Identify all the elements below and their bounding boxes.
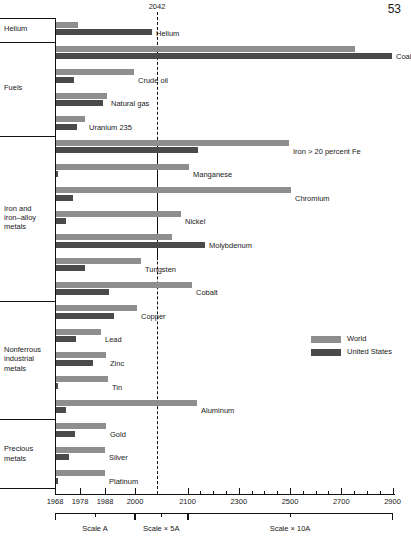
x-tick-2500 [290,488,291,494]
bar-label-nickel: Nickel [185,218,205,226]
bar-label-iron-20-percent-fe: Iron > 20 percent Fe [293,148,361,156]
bar-label-uranium-235: Uranium 235 [89,124,132,132]
x-minor-tick-2800 [367,491,368,494]
bar-world-iron-20-percent-fe [56,140,289,146]
bar-world-natural-gas [56,93,107,99]
bar-us-aluminum [56,407,66,413]
bar-us-tin [56,383,58,389]
group-label: Iron andiron–alloymetals [4,204,54,232]
bar-label-tungsten: Tungsten [145,266,176,274]
group-label: Preciousmetals [4,444,54,463]
group-label-line: Nonferrous [4,345,54,354]
x-minor-tick-2650 [328,491,329,494]
bar-us-coal [56,53,392,59]
legend-swatch-us [311,349,341,356]
projection-year-label: 2042 [149,2,166,11]
x-tick-label-1988: 1988 [97,497,114,506]
bar-us-tungsten [56,265,85,271]
group-label: Fuels [4,83,54,92]
legend-label-us: United States [347,347,392,356]
x-tick-label-2700: 2700 [333,497,350,506]
bar-us-crude-oil [56,77,74,83]
x-tick-label-2000: 2000 [127,497,144,506]
bar-world-silver [56,447,105,453]
x-minor-tick-2250 [226,491,227,494]
bar-us-natural-gas [56,100,103,106]
scale-brace-center-nub [290,513,291,517]
group-separator [0,136,56,137]
bar-label-crude-oil: Crude oil [138,77,168,85]
bar-label-tin: Tin [112,384,122,392]
x-minor-tick-2450 [277,491,278,494]
bar-world-gold [56,423,106,429]
group-separator [0,18,56,19]
bar-label-cobalt: Cobalt [196,289,218,297]
x-tick-label-2900: 2900 [384,497,401,506]
x-tick-label-2500: 2500 [282,497,299,506]
group-separator [0,419,56,420]
x-tick-2300 [239,488,240,494]
legend-swatch-world [311,336,341,343]
x-minor-tick-2550 [303,491,304,494]
group-label-line: metals [4,222,54,231]
bar-label-aluminum: Aluminum [201,407,234,415]
scale-label: Scale A [82,524,107,533]
bar-world-tungsten [56,258,141,264]
bar-label-molybdenum: Molybdenum [209,242,252,250]
x-tick-label-1968: 1968 [47,497,64,506]
group-label-line: industrial [4,354,54,363]
bar-world-aluminum [56,400,197,406]
group-separator [0,301,56,302]
bar-label-platinum: Platinum [109,478,138,486]
x-tick-2700 [341,488,342,494]
group-separator [0,42,56,43]
bar-label-natural-gas: Natural gas [111,100,149,108]
bar-world-platinum [56,470,105,476]
bar-world-helium [56,22,78,28]
bar-us-molybdenum [56,242,205,248]
bar-world-lead [56,329,101,335]
x-tick-2000 [135,488,136,494]
bar-world-copper [56,305,137,311]
bar-world-tin [56,376,108,382]
group-label-line: metals [4,454,54,463]
bar-world-cobalt [56,282,192,288]
bar-us-nickel [56,218,66,224]
scale-brace-center-nub [161,513,162,517]
group-separator [0,488,56,489]
bar-label-zinc: Zinc [110,360,124,368]
bar-world-nickel [56,211,181,217]
x-tick-1988 [105,488,106,494]
bar-us-iron-20-percent-fe [56,147,198,153]
group-label-line: metals [4,364,54,373]
x-tick-label-1978: 1978 [72,497,89,506]
x-minor-tick-2750 [354,491,355,494]
x-minor-tick-2200 [213,491,214,494]
group-label: Helium [4,24,54,33]
bar-us-chromium [56,195,73,201]
bar-world-zinc [56,352,106,358]
bar-label-coal: Coal [396,53,411,61]
bar-label-copper: Copper [141,313,166,321]
scale-brace-center-nub [95,513,96,517]
x-axis-line [55,494,395,495]
bar-label-lead: Lead [105,336,122,344]
bar-world-uranium-235 [56,116,85,122]
legend-label-world: World [347,334,366,343]
x-tick-1968 [55,488,56,494]
group-label-line: Iron and [4,204,54,213]
x-minor-tick-2400 [264,491,265,494]
group-label-line: iron–alloy [4,213,54,222]
bar-us-lead [56,336,76,342]
bar-us-manganese [56,171,58,177]
x-minor-tick-2350 [252,491,253,494]
group-label-line: Precious [4,444,54,453]
x-tick-label-2100: 2100 [179,497,196,506]
bar-us-platinum [56,478,58,484]
bar-label-chromium: Chromium [295,195,330,203]
x-minor-tick-2150 [200,491,201,494]
bar-label-manganese: Manganese [193,171,232,179]
bar-us-silver [56,454,69,460]
bar-world-crude-oil [56,69,134,75]
